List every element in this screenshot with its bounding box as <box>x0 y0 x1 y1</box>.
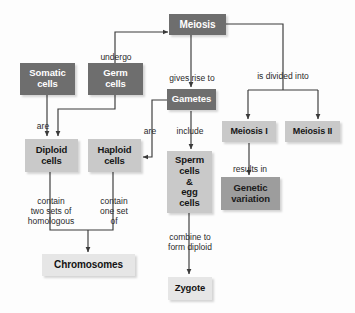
edge-label-combine-to-form-diploid: combine to form diploid <box>154 222 226 252</box>
node-haploid-cells-label: Haploid cells <box>97 145 131 166</box>
node-haploid-cells[interactable]: Haploid cells <box>88 139 141 172</box>
node-gametes-label: Gametes <box>172 94 211 105</box>
node-zygote[interactable]: Zygote <box>168 277 212 300</box>
node-meiosis-1-label: Meiosis I <box>230 126 267 136</box>
node-meiosis-2-label: Meiosis II <box>293 126 333 136</box>
node-sperm-egg-cells[interactable]: Sperm cells & egg cells <box>167 151 212 213</box>
node-somatic-cells[interactable]: Somatic cells <box>20 63 75 95</box>
edge-label-are-gametes: are <box>137 116 163 136</box>
edge-label-combine-to-form-diploid-text: combine to form diploid <box>168 232 212 252</box>
node-diploid-cells-label: Diploid cells <box>36 145 68 166</box>
node-genetic-variation[interactable]: Genetic variation <box>221 177 280 210</box>
node-meiosis-label: Meiosis <box>180 19 216 30</box>
node-somatic-cells-label: Somatic cells <box>29 68 65 89</box>
edge-label-results-in: results in <box>224 154 276 174</box>
edge-label-is-divided-into: is divided into <box>244 61 322 81</box>
edge-germ-to-diploid <box>58 95 115 136</box>
node-germ-cells[interactable]: Germ cells <box>88 63 143 95</box>
node-germ-cells-label: Germ cells <box>103 68 127 89</box>
edge-label-results-in-text: results in <box>233 164 267 174</box>
edge-label-are-somatic: are <box>28 111 58 131</box>
edge-label-gives-rise-to-text: gives rise to <box>169 73 214 83</box>
edge-label-are-somatic-text: are <box>37 121 49 131</box>
node-meiosis-2[interactable]: Meiosis II <box>285 121 340 142</box>
edge-label-contain-one-set-text: contain one set of <box>100 196 128 226</box>
node-zygote-label: Zygote <box>175 283 206 294</box>
node-sperm-egg-cells-label: Sperm cells & egg cells <box>175 155 204 208</box>
node-meiosis[interactable]: Meiosis <box>169 14 226 35</box>
node-chromosomes-label: Chromosomes <box>54 259 123 270</box>
edge-label-include: include <box>168 116 212 136</box>
edge-label-are-gametes-text: are <box>144 126 156 136</box>
node-chromosomes[interactable]: Chromosomes <box>42 254 135 276</box>
edge-label-undergo-text: undergo <box>100 52 131 62</box>
edge-label-is-divided-into-text: is divided into <box>257 71 309 81</box>
edge-label-include-text: include <box>177 126 204 136</box>
node-genetic-variation-label: Genetic variation <box>231 183 270 204</box>
edge-label-contain-two-sets: contain two sets of homologous <box>13 186 89 226</box>
node-meiosis-1[interactable]: Meiosis I <box>222 121 276 142</box>
node-diploid-cells[interactable]: Diploid cells <box>25 139 78 172</box>
edge-label-contain-two-sets-text: contain two sets of homologous <box>28 196 74 226</box>
edge-label-contain-one-set: contain one set of <box>92 186 136 226</box>
edge-label-undergo: undergo <box>90 42 142 62</box>
node-gametes[interactable]: Gametes <box>167 89 216 110</box>
edge-label-gives-rise-to: gives rise to <box>160 63 224 83</box>
concept-map-canvas: Meiosis Somatic cells Germ cells Gametes… <box>0 0 355 313</box>
